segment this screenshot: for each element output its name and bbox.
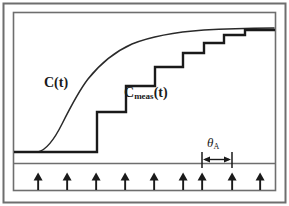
theta-subscript: A xyxy=(213,142,219,151)
cmeas-subscript: meas xyxy=(134,91,154,101)
curve-label-cmeas: Cmeas(t) xyxy=(124,86,168,101)
interval-label-theta: θA xyxy=(207,136,219,151)
cmeas-tail: (t) xyxy=(154,85,168,100)
curve-label-ct: C(t) xyxy=(44,76,68,90)
figure-container: C(t) Cmeas(t) θA xyxy=(0,0,289,206)
cmeas-base: C xyxy=(124,85,134,100)
figure-drawing xyxy=(0,0,289,206)
